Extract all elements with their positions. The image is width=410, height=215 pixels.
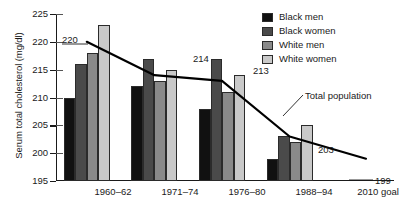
legend-label-white-women: White women — [279, 54, 337, 64]
legend-label-black-women: Black women — [279, 26, 336, 36]
cholesterol-trend-chart: Serum total cholesterol (mg/dl) 225 220 … — [0, 0, 410, 215]
legend-swatch-black-women — [262, 27, 273, 36]
legend-label-black-men: Black men — [279, 12, 323, 22]
legend-item-white-women: White women — [262, 52, 337, 66]
chart-legend: Black men Black women White men White wo… — [262, 10, 337, 66]
legend-swatch-black-men — [262, 13, 273, 22]
leader-total-population — [283, 95, 303, 116]
legend-item-black-women: Black women — [262, 24, 337, 38]
annotation-leader-lines — [0, 0, 410, 215]
legend-label-white-men: White men — [279, 40, 324, 50]
legend-swatch-white-women — [262, 55, 273, 64]
legend-item-black-men: Black men — [262, 10, 337, 24]
legend-swatch-white-men — [262, 41, 273, 50]
legend-item-white-men: White men — [262, 38, 337, 52]
